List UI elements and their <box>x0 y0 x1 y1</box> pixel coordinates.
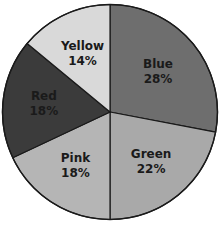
slice-name: Green <box>131 147 172 162</box>
slice-label-pink: Pink18% <box>61 151 90 181</box>
slice-label-yellow: Yellow14% <box>61 39 104 69</box>
slice-value: 22% <box>131 162 172 177</box>
slice-label-green: Green22% <box>131 147 172 177</box>
slice-name: Red <box>30 89 59 104</box>
slice-name: Pink <box>61 151 90 166</box>
slice-value: 18% <box>61 166 90 181</box>
slice-value: 28% <box>143 72 173 87</box>
slice-label-blue: Blue28% <box>143 57 173 87</box>
slice-value: 18% <box>30 104 59 119</box>
slice-name: Yellow <box>61 39 104 54</box>
slice-name: Blue <box>143 57 173 72</box>
slice-label-red: Red18% <box>30 89 59 119</box>
slice-value: 14% <box>61 54 104 69</box>
